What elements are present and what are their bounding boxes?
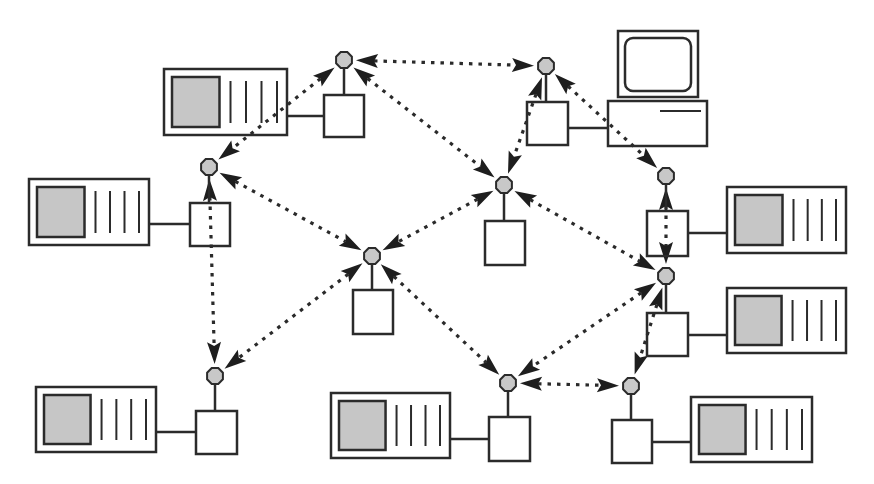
router-node <box>353 248 393 334</box>
server-icon <box>688 187 846 253</box>
arrowhead-icon <box>313 67 335 86</box>
network-link <box>225 263 363 368</box>
arrowhead-icon <box>597 378 619 392</box>
server-icon <box>652 397 812 462</box>
monitor-screen <box>625 38 691 91</box>
router-node <box>647 268 688 356</box>
drive-panel <box>699 405 746 454</box>
router-icon <box>623 378 639 394</box>
network-link <box>520 377 619 392</box>
hosts-layer <box>29 31 846 462</box>
router-icon <box>538 58 554 74</box>
network-link <box>353 67 494 177</box>
arrowhead-icon <box>634 283 656 301</box>
router-node <box>489 375 530 461</box>
interface-box <box>353 290 393 334</box>
network-diagram <box>0 0 874 484</box>
interface-box <box>489 417 530 461</box>
arrowhead-icon <box>555 74 576 94</box>
router-node <box>324 52 364 137</box>
network-link <box>508 77 542 173</box>
router-icon <box>336 52 352 68</box>
network-link <box>514 191 655 270</box>
server-icon <box>331 393 489 458</box>
router-icon <box>207 368 223 384</box>
network-link <box>635 287 663 374</box>
drive-panel <box>172 77 220 127</box>
arrowhead-icon <box>220 173 243 190</box>
drive-panel <box>735 296 782 345</box>
arrowhead-icon <box>473 159 495 178</box>
arrowhead-icon <box>207 342 221 364</box>
interface-box <box>324 95 364 137</box>
drive-panel <box>339 401 386 450</box>
network-link <box>203 179 221 364</box>
server-icon <box>36 387 196 452</box>
arrowhead-icon <box>508 151 522 174</box>
router-node <box>196 368 237 454</box>
drive-panel <box>44 395 91 444</box>
server-icon <box>29 179 190 245</box>
router-node <box>647 168 688 256</box>
computer-base <box>608 101 707 146</box>
network-link <box>383 191 494 251</box>
drive-panel <box>735 195 783 245</box>
arrowhead-icon <box>512 58 534 72</box>
arrowhead-icon <box>339 234 362 251</box>
server-icon <box>164 69 324 135</box>
interface-box <box>527 102 568 145</box>
arrowhead-icon <box>383 234 406 251</box>
arrowhead-icon <box>225 350 247 369</box>
server-icon <box>688 288 846 353</box>
router-node <box>527 58 568 145</box>
arrowhead-icon <box>471 191 494 208</box>
workstation-icon <box>568 31 707 146</box>
router-node <box>612 378 652 463</box>
drive-panel <box>37 187 85 237</box>
arrowhead-icon <box>341 263 363 282</box>
arrowhead-icon <box>514 191 537 208</box>
network-link <box>356 54 534 72</box>
interface-box <box>196 411 237 454</box>
router-node <box>485 177 525 265</box>
arrowhead-icon <box>518 358 540 376</box>
router-icon <box>496 177 512 193</box>
router-icon <box>658 268 674 284</box>
network-link <box>220 173 362 250</box>
arrowhead-icon <box>478 355 499 375</box>
router-node <box>190 159 230 246</box>
arrowhead-icon <box>353 67 375 86</box>
interface-box <box>485 221 525 265</box>
arrowhead-icon <box>381 264 402 284</box>
router-icon <box>364 248 380 264</box>
router-icon <box>500 375 516 391</box>
interface-box <box>612 420 652 463</box>
interface-box <box>647 313 688 356</box>
router-icon <box>658 168 674 184</box>
network-link <box>381 264 499 375</box>
router-icon <box>201 159 217 175</box>
